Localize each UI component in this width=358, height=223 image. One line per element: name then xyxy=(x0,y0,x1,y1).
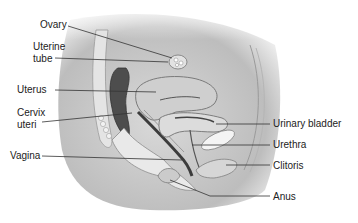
label-vagina: Vagina xyxy=(10,150,40,162)
label-uterine-tube-line2: tube xyxy=(33,53,52,65)
ovary xyxy=(169,55,187,69)
anatomy-diagram xyxy=(0,0,358,223)
label-clitoris: Clitoris xyxy=(273,160,304,172)
anus xyxy=(158,169,180,183)
label-cervix-line2: uteri xyxy=(17,119,36,131)
label-cervix-line1: Cervix xyxy=(17,107,45,119)
label-anus: Anus xyxy=(273,191,296,203)
label-ovary: Ovary xyxy=(40,19,67,31)
label-urinary-bladder: Urinary bladder xyxy=(273,118,341,130)
label-urethra: Urethra xyxy=(273,139,306,151)
label-uterus: Uterus xyxy=(17,84,46,96)
label-uterine-tube-line1: Uterine xyxy=(33,41,65,53)
